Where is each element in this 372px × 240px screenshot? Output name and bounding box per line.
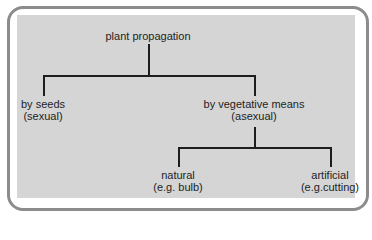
connector-level1-horizontal [43,75,255,77]
node-sublabel: (e.g. bulb) [153,181,203,193]
node-by-seeds: by seeds (sexual) [21,98,65,122]
connector-to-by-seeds [43,75,45,96]
connector-to-vegetative [254,75,256,96]
node-sublabel: (sexual) [21,110,65,122]
node-label: artificial [311,169,348,181]
node-plant-propagation: plant propagation [105,30,190,42]
connector-root-stem [148,44,150,75]
node-by-vegetative-means: by vegetative means (asexual) [204,98,305,122]
node-label: plant propagation [105,30,190,42]
connector-to-natural [178,147,180,167]
node-label: by vegetative means [204,98,305,110]
connector-vegetative-stem [254,127,256,148]
connector-level2-horizontal [178,147,331,149]
node-label: by seeds [21,98,65,110]
connector-to-artificial [330,147,332,167]
node-sublabel: (asexual) [204,110,305,122]
node-sublabel: (e.g.cutting) [301,181,359,193]
node-artificial: artificial (e.g.cutting) [301,169,359,193]
node-natural: natural (e.g. bulb) [153,169,203,193]
node-label: natural [161,169,195,181]
